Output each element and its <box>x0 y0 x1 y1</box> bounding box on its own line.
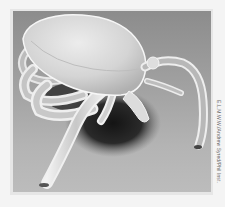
tick-micrograph <box>13 11 211 192</box>
photo-credit: E.L.M.W.W./Andrew Syred/Phil Inst. <box>214 100 224 205</box>
tick-illustration <box>13 11 211 192</box>
